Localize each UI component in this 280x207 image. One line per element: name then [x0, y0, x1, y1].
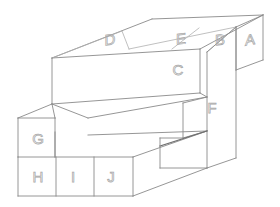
face-label-b: B: [215, 30, 225, 48]
edge-middle-slab-front-bottom: [133, 168, 207, 196]
face-label-a: A: [245, 30, 256, 49]
face-label-c: C: [173, 61, 184, 78]
face-c-fill: [200, 49, 207, 97]
face-label-g: G: [32, 130, 44, 147]
face-label-h: H: [33, 168, 44, 185]
face-label-d: D: [105, 30, 116, 48]
face-label-i: I: [71, 168, 75, 185]
block-structure-svg: A B C D E F G H I J: [0, 0, 280, 207]
face-label-e: E: [176, 29, 186, 47]
block-diagram-figure: A B C D E F G H I J: [0, 0, 280, 207]
face-label-j: J: [107, 168, 115, 185]
face-label-f: F: [207, 99, 216, 116]
